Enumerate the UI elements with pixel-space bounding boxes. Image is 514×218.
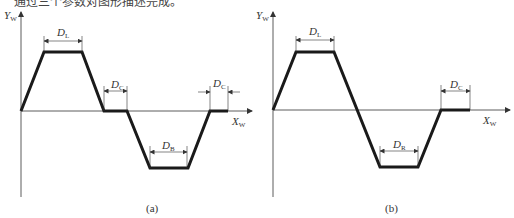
x-axis-label: XW [231,115,246,129]
caption-a: (a) [146,202,159,215]
waveform-path [273,52,470,167]
label-dc: DC [449,78,463,92]
waveform-diagrams: DL DC DB DC YW XW (a) DL D [0,0,514,218]
label-dl: DL [308,25,321,39]
y-axis-label: YW [256,9,269,23]
caption-b: (b) [385,202,398,215]
label-dc-2: DC [212,77,226,91]
label-dr: DR [392,138,406,152]
figure-a: DL DC DB DC YW XW (a) [4,9,252,215]
waveform-path [21,52,228,168]
label-dc-1: DC [110,78,124,92]
label-db: DB [161,139,175,153]
figure-b: DL DR DC YW XW (b) [256,9,510,215]
label-dl: DL [56,26,69,40]
x-axis-label: XW [482,114,497,128]
y-axis-label: YW [4,9,17,23]
